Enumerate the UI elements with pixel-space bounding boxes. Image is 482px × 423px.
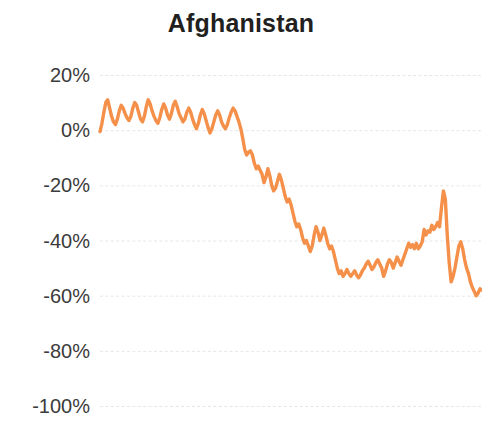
- y-axis-tick-label: -80%: [0, 339, 90, 362]
- series-line: [100, 100, 482, 296]
- y-axis-tick-label: -40%: [0, 229, 90, 252]
- plot-area: 20%0%-20%-40%-60%-80%-100%: [0, 0, 482, 423]
- y-axis-tick-label: 20%: [0, 64, 90, 87]
- chart-container: Afghanistan 20%0%-20%-40%-60%-80%-100%: [0, 0, 482, 423]
- y-axis-tick-label: 0%: [0, 119, 90, 142]
- y-axis-tick-label: -60%: [0, 284, 90, 307]
- y-axis-tick-label: -100%: [0, 395, 90, 418]
- y-axis-tick-label: -20%: [0, 174, 90, 197]
